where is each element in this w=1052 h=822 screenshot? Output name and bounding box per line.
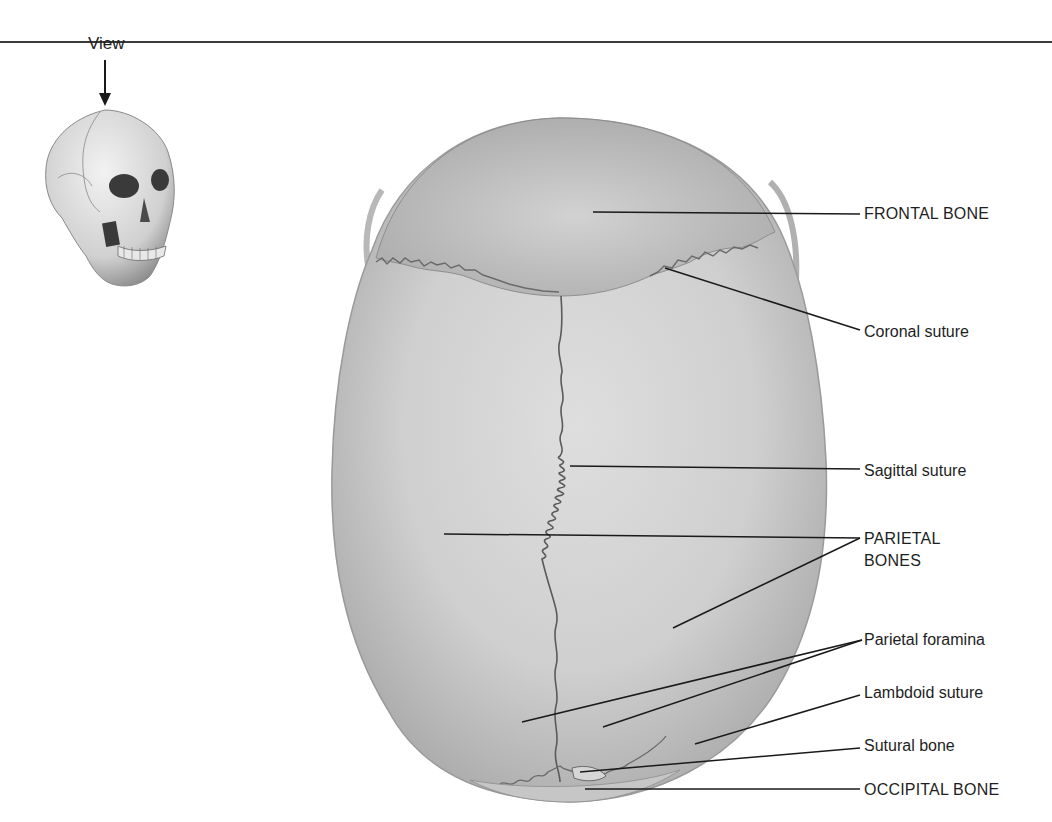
- label-coronal-suture: Coronal suture: [864, 321, 969, 343]
- label-lambdoid-suture: Lambdoid suture: [864, 682, 983, 704]
- label-parietal-bones-line2: BONES: [864, 550, 921, 572]
- label-sutural-bone: Sutural bone: [864, 735, 955, 757]
- label-sagittal-suture: Sagittal suture: [864, 460, 966, 482]
- skull-thumbnail-icon: [46, 110, 175, 286]
- label-occipital-bone: OCCIPITAL BONE: [864, 779, 999, 801]
- skull-superior-view: [332, 118, 827, 802]
- label-parietal-bones-line1: PARIETAL: [864, 528, 941, 550]
- arrow-down-icon: [99, 60, 111, 106]
- label-frontal-bone: FRONTAL BONE: [864, 203, 989, 225]
- label-parietal-foramina: Parietal foramina: [864, 629, 985, 651]
